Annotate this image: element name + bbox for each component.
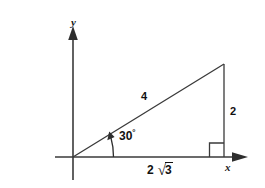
arrow-up-icon [68, 26, 78, 40]
hypotenuse-length-label: 4 [141, 91, 147, 102]
angle-measure-label: 30° [119, 129, 136, 142]
adjacent-leg-length-label: 2√3 [147, 162, 173, 178]
diagram-canvas [0, 0, 265, 188]
arrow-right-icon [232, 152, 248, 162]
angle-value: 30 [119, 129, 132, 143]
right-angle-square-icon [210, 143, 225, 157]
geometry-diagram: y x 4 2 2√3 30° [0, 0, 265, 188]
y-axis-label: y [71, 17, 76, 28]
square-root-icon: √3 [157, 162, 173, 178]
hypotenuse-line [73, 64, 224, 157]
adjacent-coefficient: 2 [147, 163, 154, 177]
adjacent-radicand: 3 [165, 162, 173, 176]
x-axis-label: x [225, 162, 231, 173]
angle-arrow-icon [111, 137, 114, 157]
degree-symbol: ° [132, 128, 135, 137]
opposite-leg-length-label: 2 [230, 106, 236, 117]
